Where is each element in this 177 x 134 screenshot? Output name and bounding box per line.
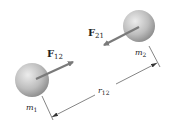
distance-line-right [116, 63, 157, 84]
mass-m2-label: m2 [135, 48, 147, 58]
distance-r12-label: r12 [98, 86, 110, 96]
distance-line-left [52, 95, 95, 117]
mass-m1-sphere [15, 63, 49, 97]
extension-line-m1 [42, 96, 53, 120]
mass-m2-sphere [123, 10, 155, 42]
mass-m1-label: m1 [26, 103, 37, 113]
gravity-diagram: F12 F21 m1 m2 r12 [0, 0, 177, 134]
extension-line-m2 [149, 46, 160, 67]
force-f21-label: F21 [88, 27, 104, 40]
force-f12-label: F12 [47, 48, 63, 61]
